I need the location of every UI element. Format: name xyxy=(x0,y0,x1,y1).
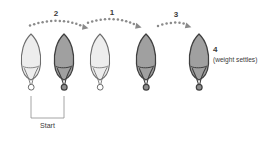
motion-arrow-2: 2 xyxy=(29,9,89,31)
settle-caption-label: (weight settles) xyxy=(213,56,257,64)
arrow-head-icon xyxy=(82,24,90,31)
settle-number-label: 4 xyxy=(213,45,218,54)
lure-3 xyxy=(90,34,109,90)
lure-eye-icon xyxy=(28,84,34,90)
diagram-canvas: 2 1 3 xyxy=(0,0,278,143)
start-bracket: Start xyxy=(31,96,64,129)
lure-eye-icon xyxy=(97,84,103,90)
lure-5 xyxy=(189,34,208,90)
motion-arrow-1: 1 xyxy=(87,8,143,30)
motion-arrow-3: 3 xyxy=(157,10,192,30)
jig-motion-diagram: 2 1 3 xyxy=(0,0,278,143)
lure-1 xyxy=(21,34,40,90)
arrow-head-icon xyxy=(135,23,143,30)
lure-4 xyxy=(136,34,155,90)
lure-eye-icon xyxy=(196,84,202,90)
start-bracket-label: Start xyxy=(40,122,55,129)
motion-arrow-3-label: 3 xyxy=(174,10,179,19)
lure-eye-icon xyxy=(143,84,149,90)
arrow-head-icon xyxy=(185,22,193,29)
motion-arrow-2-label: 2 xyxy=(54,9,59,18)
motion-arrow-1-label: 1 xyxy=(110,8,115,17)
lure-eye-icon xyxy=(61,84,67,90)
lure-2 xyxy=(54,34,73,90)
